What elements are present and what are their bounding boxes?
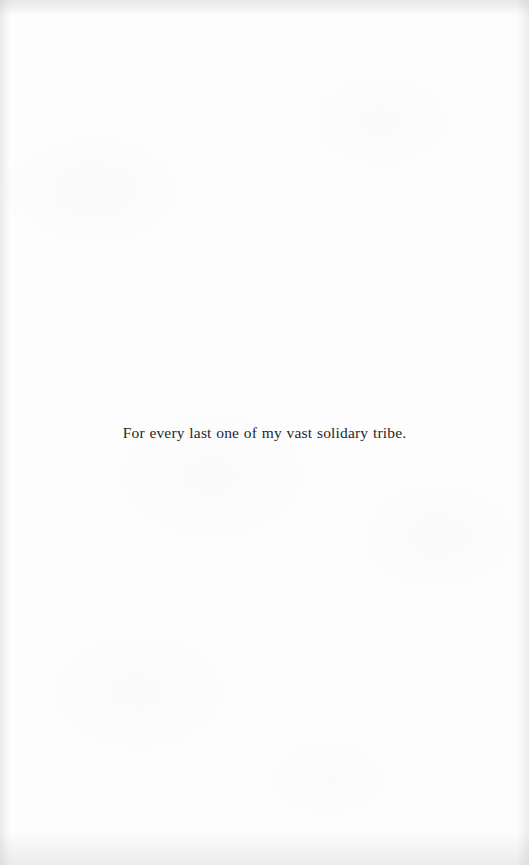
scan-shadow-bottom: [0, 831, 529, 865]
scanned-book-page: For every last one of my vast solidary t…: [0, 0, 529, 865]
dedication-text: For every last one of my vast solidary t…: [123, 423, 407, 443]
scan-shadow-top: [0, 0, 529, 16]
dedication-block: For every last one of my vast solidary t…: [0, 423, 529, 443]
